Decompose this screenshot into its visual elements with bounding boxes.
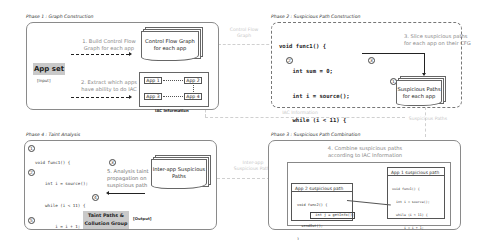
phase4-title: Phase 4 : Taint Analysis <box>26 132 80 137</box>
step-text: 3. Slice suspicious paths <box>404 33 464 40</box>
code-line: while (i < 11) { <box>392 213 440 217</box>
phase3-title: Phase 3 : Suspicious Path Combination <box>271 132 360 137</box>
step2-label: 2. Extract which apps have ability to do… <box>69 79 149 93</box>
phase1-title: Phase 1 : Graph Construction <box>26 14 93 19</box>
phase1-panel: 1. Build Control Flow Graph for each app… <box>26 22 219 110</box>
connector-line-cfg <box>218 44 274 45</box>
doc-text: for each app <box>142 45 198 52</box>
output-text: Taint Paths & <box>83 212 129 220</box>
arrowhead <box>129 95 132 99</box>
phase2-title: Phase 2 : Suspicious Path Construction <box>271 14 360 19</box>
code-line: void func1() { <box>35 159 90 166</box>
input-label: [Input] <box>37 78 50 83</box>
app1-code: void func1() { int i = source(); while (… <box>388 176 444 240</box>
doc-text: Paths <box>152 173 206 180</box>
susp-doc: Suspicious Paths for each app <box>396 80 442 106</box>
code-line: int i = source(); <box>35 180 90 187</box>
step2-arrow <box>71 97 129 98</box>
cfg-doc: Control Flow Graph for each app <box>141 31 199 61</box>
iac-app3: App 3 <box>144 93 162 100</box>
step3-arrow-v <box>424 53 425 74</box>
step5-arrow <box>109 193 145 194</box>
code-line: void func1() { <box>392 187 440 191</box>
iac-edge-1-2 <box>163 80 183 81</box>
iac-app1: App 1 <box>144 77 162 84</box>
connector-line-interapp <box>212 178 270 179</box>
iac-edge-4-2 <box>193 85 194 92</box>
marker-1: 1 <box>28 145 35 152</box>
connector-label-cfg: Control Flow Graph <box>224 27 264 39</box>
code-line: while (i < 11) { <box>35 202 90 209</box>
arrowhead <box>106 191 109 195</box>
phase3-panel: 4. Combine suspicious paths according to… <box>268 140 461 230</box>
connector-label-suspicious: Suspicious Paths <box>398 116 458 122</box>
marker-3: 3 <box>368 57 375 64</box>
app1-path-box: App 1 suspicious path void func1() { int… <box>387 167 445 219</box>
app-set-box: App set <box>33 63 65 75</box>
code-line: int j = getInfo(); <box>310 212 355 219</box>
step-text: 2. Extract which apps <box>69 79 149 86</box>
code-line: i = i + 1; <box>392 226 440 230</box>
connector-text: Graph <box>224 33 264 39</box>
code-line: while (i < 11) { <box>279 116 353 124</box>
step-text: propagation on <box>107 175 149 182</box>
step1-arrow <box>71 54 129 55</box>
step-text: for each app on their CFG <box>404 40 464 47</box>
code-line: int i = source(); <box>279 92 353 100</box>
step-text: according to IAC Information <box>319 152 411 159</box>
step3-label: 3. Slice suspicious paths for each app o… <box>404 33 464 47</box>
code-line: void func1() { <box>279 42 353 50</box>
app1-path-title: App 1 suspicious path <box>388 168 444 176</box>
marker-4: 4 <box>92 194 99 201</box>
code-line: int sum = 0; <box>279 67 353 75</box>
iac-caption: IAC Information <box>155 108 189 113</box>
interapp-doc: Inter-app Suspicious Paths <box>151 159 207 189</box>
marker-2: 2 <box>286 57 293 64</box>
app2-path-title: App 2 suspicious path <box>292 184 352 192</box>
marker-3: 3 <box>109 159 116 166</box>
doc-text: Inter-app Suspicious <box>152 166 206 173</box>
marker-2: 2 <box>28 169 35 176</box>
doc-text: Suspicious Paths <box>397 86 441 93</box>
doc-text: for each app <box>397 93 441 100</box>
code-line: sendOut(); <box>297 224 347 229</box>
step-text: Graph for each app <box>69 45 149 52</box>
step3-arrow-h <box>362 53 424 54</box>
app2-code: void func2() { int j = getInfo(); sendOu… <box>292 192 352 240</box>
step5-label: 5. Analysis taint propagation on suspici… <box>107 168 149 189</box>
step-text: 5. Analysis taint <box>107 168 149 175</box>
step-text: have ability to do IAC <box>69 86 149 93</box>
code-line: void func2() { <box>297 203 347 208</box>
app2-path-box: App 2 suspicious path void func2() { int… <box>291 183 353 221</box>
step4-label: 4. Combine suspicious paths according to… <box>319 145 411 159</box>
arrowhead <box>129 52 132 56</box>
iac-app2: App 2 <box>184 77 202 84</box>
step-text: 1. Build Control Flow <box>69 38 149 45</box>
output-text: Collusion Group <box>83 220 129 228</box>
phase4-panel: void func1() { int i = source(); while (… <box>24 140 217 230</box>
connector-line-suspicious <box>425 107 426 137</box>
phase2-panel: void func1() { int sum = 0; int i = sour… <box>271 22 462 108</box>
doc-text: Control Flow Graph <box>142 38 198 45</box>
step-text: 4. Combine suspicious paths <box>319 145 411 152</box>
step1-label: 1. Build Control Flow Graph for each app <box>69 38 149 52</box>
step-text: suspicious path <box>107 182 149 189</box>
iac-edge-3-4 <box>163 96 183 97</box>
marker-5: 5 <box>28 217 35 224</box>
iac-info-box: App 1 App 2 App 3 App 4 <box>139 72 209 107</box>
output-label: [Output] <box>133 216 151 221</box>
code-line: int i = source(); <box>392 200 440 204</box>
output-box: Taint Paths & Collusion Group <box>83 211 129 229</box>
iac-app4: App 4 <box>184 93 202 100</box>
